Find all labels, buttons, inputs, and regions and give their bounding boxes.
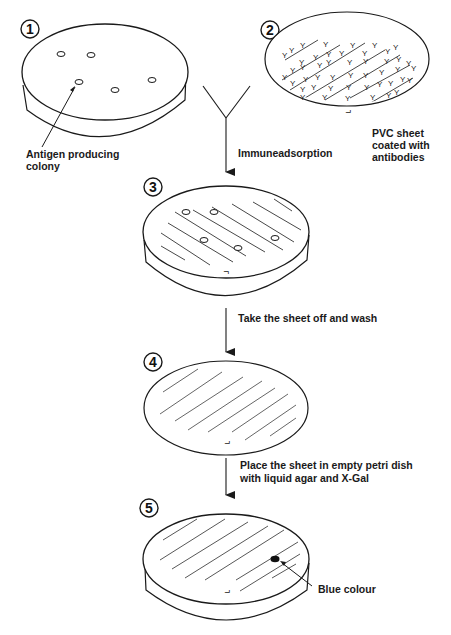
colony-icon bbox=[111, 88, 119, 93]
svg-text:Y: Y bbox=[328, 84, 334, 93]
svg-text:Y: Y bbox=[290, 66, 296, 75]
colony-icon bbox=[210, 210, 218, 215]
svg-text:5: 5 bbox=[145, 500, 153, 516]
svg-text:Y: Y bbox=[289, 46, 295, 55]
svg-text:Y: Y bbox=[290, 79, 296, 88]
step-5-number-badge: 5 bbox=[140, 499, 158, 517]
svg-text:Y: Y bbox=[323, 40, 329, 49]
dish-top bbox=[22, 24, 188, 120]
colony-icon bbox=[148, 78, 156, 83]
svg-text:Y: Y bbox=[400, 75, 406, 84]
svg-text:Y: Y bbox=[322, 93, 328, 102]
colony-icon bbox=[200, 238, 208, 243]
svg-text:Y: Y bbox=[345, 94, 351, 103]
orientation-mark: ⌐ bbox=[224, 438, 230, 449]
antibody-icons: YYY YYY YYY YYYY YYY YYY YYYY YYY YYY YY… bbox=[282, 40, 417, 103]
svg-text:Y: Y bbox=[363, 71, 369, 80]
arrow-label-place-sheet-line-1: Place the sheet in empty petri dish bbox=[240, 459, 413, 471]
svg-text:Y: Y bbox=[330, 73, 336, 82]
svg-text:Y: Y bbox=[386, 91, 392, 100]
svg-text:Y: Y bbox=[300, 41, 306, 50]
svg-text:Y: Y bbox=[348, 71, 354, 80]
step-1-number-badge: 1 bbox=[21, 20, 39, 38]
blue-colour-caption: Blue colour bbox=[318, 583, 376, 595]
svg-text:Y: Y bbox=[370, 93, 376, 102]
step-1-petri-dish: 1 Antigen producing colony bbox=[21, 20, 188, 172]
svg-text:Y: Y bbox=[388, 79, 394, 88]
svg-text:Y: Y bbox=[311, 83, 317, 92]
svg-text:Y: Y bbox=[364, 83, 370, 92]
svg-text:Y: Y bbox=[282, 51, 288, 60]
colony-icon bbox=[182, 210, 190, 215]
svg-text:Y: Y bbox=[385, 47, 391, 56]
arrow-label-immuneadsorption: Immuneadsorption bbox=[238, 147, 333, 159]
svg-text:Y: Y bbox=[372, 41, 378, 50]
orientation-mark: ⌐ bbox=[223, 266, 229, 277]
svg-text:Y: Y bbox=[300, 63, 306, 72]
antibody-symbol bbox=[203, 86, 250, 118]
orientation-mark: ⌐ bbox=[345, 107, 351, 118]
step-2-pvc-sheet: 2 YYY YYY YYY YYYY YYY YYY YYYY YYY YYY … bbox=[261, 12, 430, 163]
svg-text:Y: Y bbox=[303, 75, 309, 84]
colony-icon bbox=[57, 52, 65, 57]
svg-text:Y: Y bbox=[347, 58, 353, 67]
blue-colony-dot bbox=[271, 556, 280, 562]
colony-icon bbox=[271, 236, 279, 241]
pvc-caption-line-1: PVC sheet bbox=[372, 127, 424, 139]
svg-text:Y: Y bbox=[411, 64, 417, 73]
pvc-caption-line-2: coated with bbox=[372, 139, 430, 151]
svg-text:Y: Y bbox=[350, 41, 356, 50]
orientation-mark: ⌐ bbox=[224, 587, 230, 598]
svg-text:2: 2 bbox=[266, 22, 274, 38]
arrow-label-take-sheet-off: Take the sheet off and wash bbox=[238, 312, 377, 324]
step-4-washed-sheet: 4 ⌐ bbox=[144, 353, 308, 455]
svg-text:Y: Y bbox=[317, 61, 323, 70]
svg-text:Y: Y bbox=[396, 55, 402, 64]
svg-text:Y: Y bbox=[407, 76, 413, 85]
svg-text:Y: Y bbox=[379, 68, 385, 77]
svg-text:Y: Y bbox=[326, 58, 332, 67]
svg-text:3: 3 bbox=[149, 179, 157, 195]
dish-top bbox=[143, 186, 309, 278]
svg-text:Y: Y bbox=[282, 73, 288, 82]
pvc-caption-line-3: antibodies bbox=[372, 151, 425, 163]
svg-text:Y: Y bbox=[384, 57, 390, 66]
step-5-petri-dish: 5 ⌐ Blue colour bbox=[140, 499, 376, 620]
step-3-petri-dish: 3 ⌐ bbox=[143, 178, 309, 296]
svg-text:Y: Y bbox=[393, 43, 399, 52]
svg-text:4: 4 bbox=[149, 354, 157, 370]
svg-text:Y: Y bbox=[339, 49, 345, 58]
svg-text:Y: Y bbox=[394, 88, 400, 97]
colony-icon bbox=[234, 246, 242, 251]
svg-text:Y: Y bbox=[300, 93, 306, 102]
arrow-label-place-sheet-line-2: with liquid agar and X-Gal bbox=[239, 472, 369, 484]
immunoscreening-diagram: 1 Antigen producing colony 2 bbox=[0, 0, 451, 635]
colony-icon bbox=[87, 53, 95, 58]
svg-text:Y: Y bbox=[395, 65, 401, 74]
step-4-number-badge: 4 bbox=[144, 353, 162, 371]
svg-text:Y: Y bbox=[315, 73, 321, 82]
svg-text:Y: Y bbox=[363, 57, 369, 66]
colony-icon bbox=[75, 80, 83, 85]
svg-text:Y: Y bbox=[346, 83, 352, 92]
colony-caption-line-2: colony bbox=[26, 160, 60, 172]
svg-text:Y: Y bbox=[377, 80, 383, 89]
colony-caption-line-1: Antigen producing bbox=[26, 148, 119, 160]
step-3-number-badge: 3 bbox=[144, 178, 162, 196]
svg-text:1: 1 bbox=[26, 21, 34, 37]
